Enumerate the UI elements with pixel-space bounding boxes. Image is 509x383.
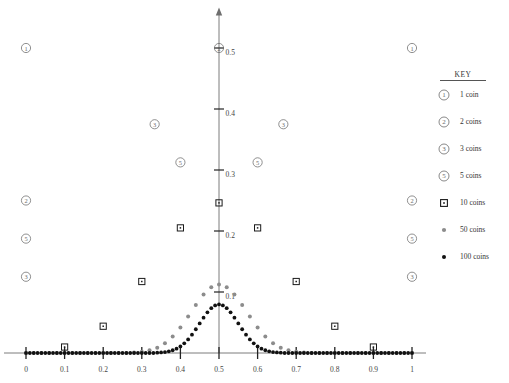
open-square-icon [434,196,454,210]
svg-text:1: 1 [442,91,446,99]
legend-entry-2-coins: 22 coins [434,108,509,135]
svg-text:3: 3 [153,121,156,128]
x-tick-label: 0 [24,365,28,374]
legend-title: KEY [440,70,486,81]
svg-text:5: 5 [24,235,27,242]
x-tick-label: 1 [410,365,414,374]
coin-flip-distribution-chart: 00.10.20.30.40.50.60.70.80.91 0.10.20.30… [0,0,430,383]
circled-2-icon: 2 [434,115,454,129]
legend-entry-label: 2 coins [454,117,481,126]
svg-text:5: 5 [442,172,446,180]
legend-entry-10-coins: 10 coins [434,189,509,216]
svg-text:3: 3 [410,273,413,280]
legend-entry-label: 10 coins [454,198,485,207]
legend-entry-50-coins: 50 coins [434,216,509,243]
svg-text:1: 1 [24,45,27,52]
y-tick-label: 0.2 [226,231,236,240]
x-tick-label: 0.3 [137,365,147,374]
legend-entry-5-coins: 55 coins [434,162,509,189]
legend-entry-label: 100 coins [454,252,489,261]
plot-area: 00.10.20.30.40.50.60.70.80.91 0.10.20.30… [0,0,430,383]
chart-page: 00.10.20.30.40.50.60.70.80.91 0.10.20.30… [0,0,509,383]
svg-text:2: 2 [410,197,413,204]
x-tick-label: 0.2 [99,365,109,374]
axes [4,7,426,353]
legend: KEY 11 coin22 coins33 coins55 coins10 co… [432,70,509,270]
svg-text:2: 2 [442,118,446,126]
svg-text:3: 3 [282,121,285,128]
legend-entry-label: 1 coin [454,90,479,99]
legend-entries: 11 coin22 coins33 coins55 coins10 coins5… [432,81,509,270]
x-tick-label: 0.5 [214,365,224,374]
x-tick-label: 0.1 [60,365,70,374]
svg-text:3: 3 [442,145,446,153]
y-axis-ticks: 0.10.20.30.40.5 [214,48,235,301]
y-tick-label: 0.3 [226,170,236,179]
x-tick-label: 0.4 [176,365,186,374]
x-tick-label: 0.9 [369,365,379,374]
svg-text:1: 1 [410,45,413,52]
x-tick-label: 0.7 [292,365,302,374]
legend-entry-3-coins: 33 coins [434,135,509,162]
y-axis-arrow [216,7,222,15]
black-dot-icon [434,250,454,264]
x-tick-label: 0.6 [253,365,263,374]
y-tick-label: 0.4 [226,109,236,118]
circled-3-icon: 3 [434,142,454,156]
legend-entry-label: 3 coins [454,144,481,153]
x-tick-label: 0.8 [330,365,340,374]
svg-text:2: 2 [24,197,27,204]
svg-text:5: 5 [256,159,259,166]
circled-1-icon: 1 [434,88,454,102]
legend-entry-1-coin: 11 coin [434,81,509,108]
legend-entry-label: 5 coins [454,171,481,180]
gray-dot-icon [434,223,454,237]
svg-text:3: 3 [24,273,27,280]
svg-text:5: 5 [410,235,413,242]
svg-text:2: 2 [217,45,220,52]
x-axis-ticks: 00.10.20.30.40.50.60.70.80.91 [24,347,414,374]
svg-text:5: 5 [179,159,182,166]
legend-entry-label: 50 coins [454,225,485,234]
y-tick-label: 0.5 [226,48,236,57]
legend-entry-100-coins: 100 coins [434,243,509,270]
circled-5-icon: 5 [434,169,454,183]
